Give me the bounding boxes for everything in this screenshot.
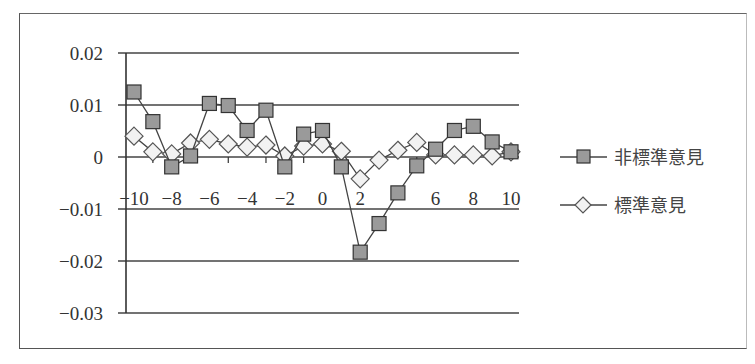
x-tick-label: 8 [469, 188, 479, 209]
square-marker-icon [221, 99, 235, 113]
square-marker-icon [353, 245, 367, 259]
square-marker-icon [165, 160, 179, 174]
square-marker-icon [577, 150, 590, 163]
square-marker-icon [410, 159, 424, 173]
legend-item-standard: 標準意見 [560, 195, 686, 216]
x-tick-label: 0 [318, 188, 328, 209]
y-tick-label: −0.01 [59, 199, 103, 220]
square-marker-icon [202, 96, 216, 110]
diamond-marker-icon [200, 130, 218, 148]
square-marker-icon [447, 123, 461, 137]
y-tick-label: 0.01 [70, 95, 103, 116]
x-tick-label: 6 [431, 188, 441, 209]
square-marker-icon [334, 160, 348, 174]
square-marker-icon [259, 103, 273, 117]
diamond-marker-icon [483, 147, 501, 165]
square-marker-icon [184, 149, 198, 163]
x-tick-label: −4 [237, 188, 258, 209]
data-series [125, 85, 520, 259]
diamond-marker-icon [238, 138, 256, 156]
gridlines [118, 53, 519, 313]
x-tick-label: −8 [162, 188, 182, 209]
diamond-marker-icon [144, 143, 162, 161]
square-marker-icon [504, 145, 518, 159]
y-tick-label: −0.02 [59, 251, 103, 272]
square-marker-icon [316, 123, 330, 137]
square-marker-icon [278, 160, 292, 174]
x-tick-label: −2 [275, 188, 295, 209]
x-axis-tick-labels: −10−8−6−4−2026810 [119, 188, 520, 209]
square-marker-icon [372, 217, 386, 231]
x-tick-label: −10 [119, 188, 149, 209]
legend-label: 非標準意見 [614, 147, 704, 168]
square-marker-icon [429, 142, 443, 156]
diamond-marker-icon [408, 133, 426, 151]
y-tick-label: −0.03 [59, 303, 103, 324]
diamond-marker-icon [125, 127, 143, 145]
square-marker-icon [146, 115, 160, 129]
line-chart: 0.020.010−0.01−0.02−0.03 −10−8−6−4−20268… [0, 0, 755, 364]
x-tick-label: 2 [355, 188, 365, 209]
square-marker-icon [391, 186, 405, 200]
square-marker-icon [240, 123, 254, 137]
y-axis-tick-labels: 0.020.010−0.01−0.02−0.03 [59, 43, 103, 324]
diamond-marker-icon [464, 146, 482, 164]
legend-label: 標準意見 [614, 195, 686, 216]
y-tick-label: 0 [94, 147, 104, 168]
diamond-marker-icon [219, 135, 237, 153]
series-non-standard [127, 85, 518, 259]
diamond-marker-icon [575, 197, 591, 213]
x-tick-label: 10 [502, 188, 521, 209]
square-marker-icon [466, 119, 480, 133]
axes [126, 53, 492, 313]
x-tick-label: −6 [199, 188, 219, 209]
diamond-marker-icon [257, 136, 275, 154]
square-marker-icon [297, 127, 311, 141]
legend: 非標準意見 標準意見 [560, 147, 704, 216]
square-marker-icon [485, 135, 499, 149]
legend-item-non-standard: 非標準意見 [560, 147, 704, 168]
diamond-marker-icon [445, 146, 463, 164]
square-marker-icon [127, 85, 141, 99]
y-tick-label: 0.02 [70, 43, 103, 64]
